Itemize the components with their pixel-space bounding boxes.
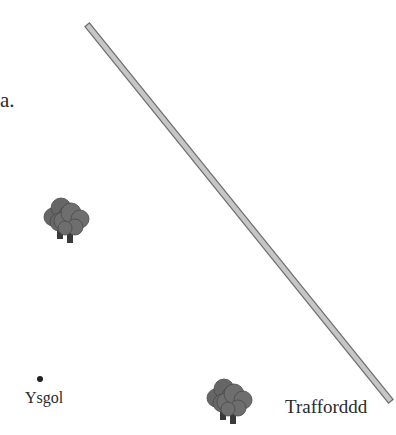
part-label: a. — [0, 88, 15, 113]
map-diagram — [0, 0, 396, 435]
road-label: Trafforddd — [285, 396, 367, 418]
school-point-icon — [37, 376, 43, 382]
tree-cluster-bottom-icon — [207, 379, 252, 424]
school-label: Ysgol — [25, 389, 63, 407]
road — [89, 27, 389, 399]
tree-cluster-left-icon — [44, 198, 89, 243]
